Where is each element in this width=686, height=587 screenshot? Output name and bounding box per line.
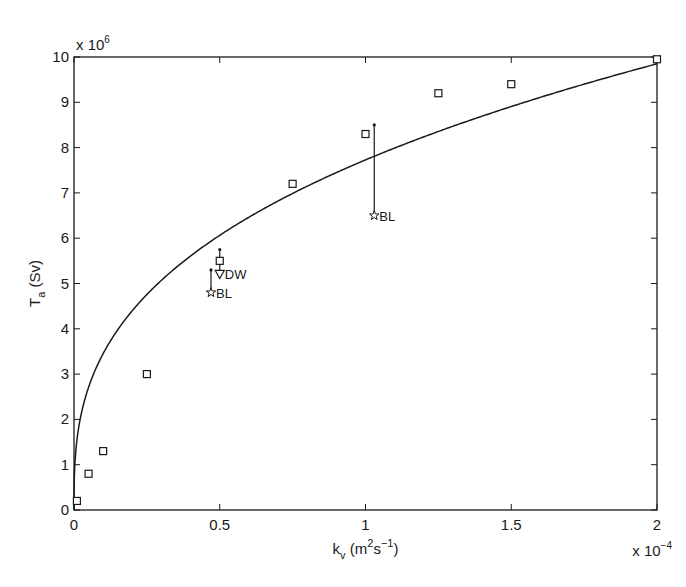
x-tick-label: 2 [653, 516, 661, 533]
annotation-bl: BL [379, 209, 395, 224]
square-marker [85, 470, 92, 477]
square-marker [143, 371, 150, 378]
y-tick-label: 9 [61, 93, 69, 110]
plot-box [74, 57, 657, 510]
square-marker [435, 90, 442, 97]
x-tick-label: 1.5 [501, 516, 522, 533]
y-multiplier: x 106 [76, 34, 110, 53]
y-tick-label: 2 [61, 410, 69, 427]
y-tick-label: 8 [61, 139, 69, 156]
square-marker [362, 131, 369, 138]
star-marker [206, 288, 216, 297]
square-marker [100, 448, 107, 455]
x-tick-label: 1 [361, 516, 369, 533]
annotation-dw: DW [225, 267, 247, 282]
square-marker [216, 257, 223, 264]
triangle-marker [215, 270, 224, 278]
y-tick-label: 10 [52, 48, 69, 65]
annotation-bl: BL [216, 286, 232, 301]
y-tick-label: 4 [61, 320, 69, 337]
x-axis-label: kv (m2s−1) [333, 537, 399, 561]
plot-frame [74, 57, 657, 510]
annotations: DWBLBL [216, 209, 395, 301]
y-tick-label: 0 [61, 501, 69, 518]
y-axis-label: Ta (Sv) [26, 260, 47, 307]
y-tick-label: 6 [61, 229, 69, 246]
x-tick-label: 0 [70, 516, 78, 533]
y-tick-label: 7 [61, 184, 69, 201]
square-marker [654, 56, 661, 63]
star-marker [369, 211, 379, 220]
chart: 00.511.52012345678910 DWBLBL kv (m2s−1)T… [0, 0, 686, 587]
y-tick-label: 5 [61, 275, 69, 292]
square-marker [508, 81, 515, 88]
square-marker [73, 497, 80, 504]
x-tick-label: 0.5 [209, 516, 230, 533]
y-tick-label: 1 [61, 456, 69, 473]
x-multiplier: x 10−4 [632, 540, 672, 559]
square-marker [289, 180, 296, 187]
axis-ticks: 00.511.52012345678910 [52, 48, 661, 533]
y-tick-label: 3 [61, 365, 69, 382]
axis-labels: kv (m2s−1)Ta (Sv)x 106x 10−4 [26, 34, 672, 561]
